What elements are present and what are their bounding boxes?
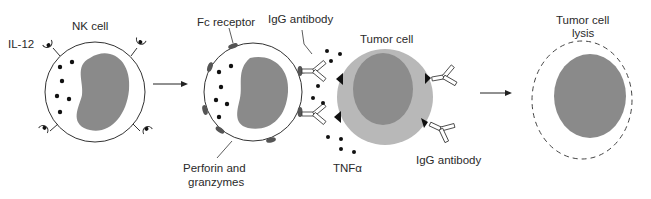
label-tnf-alpha: TNFα [333, 162, 362, 175]
nk-cell-engaged [201, 42, 302, 144]
nk-cell-resting [39, 38, 153, 142]
label-tumor-cell: Tumor cell [360, 33, 413, 46]
antigen [334, 111, 341, 123]
label-igg-antibody-bottom: IgG antibody [416, 154, 481, 167]
label-perforin: Perforin and [183, 162, 246, 175]
label-fc-receptor: Fc receptor [197, 16, 255, 29]
label-lysis-line2: lysis [572, 27, 594, 40]
arrow-to-lysis [480, 90, 512, 96]
label-lysis-line1: Tumor cell [556, 14, 609, 27]
lysed-tumor-cell [532, 41, 632, 159]
label-granzymes: granzymes [188, 176, 244, 189]
label-nk-cell: NK cell [72, 20, 108, 33]
arrow-to-engagement [153, 81, 188, 87]
igg-antibodies-bridging [302, 60, 343, 124]
label-il12: IL-12 [8, 38, 34, 51]
tumor-cell [337, 49, 433, 145]
label-igg-antibody-top: IgG antibody [268, 13, 333, 26]
